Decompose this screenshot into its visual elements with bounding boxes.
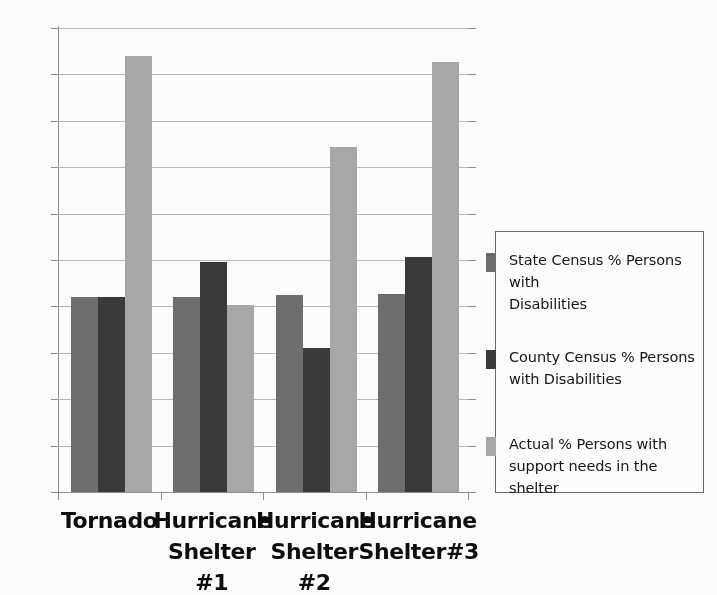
- y-tick-mark: [51, 399, 58, 400]
- bar: [303, 348, 330, 492]
- x-axis-label-line: Hurricane: [359, 505, 476, 536]
- bar: [98, 297, 125, 492]
- y-tick-mark-right: [468, 74, 476, 75]
- x-axis-label-line: Hurricane: [256, 505, 373, 536]
- bars-container: [58, 28, 468, 492]
- legend-label-line: Actual % Persons with: [509, 434, 699, 456]
- bar: [173, 297, 200, 492]
- y-tick-mark: [51, 492, 58, 493]
- y-tick-mark-right: [468, 214, 476, 215]
- legend-label: Actual % Persons withsupport needs in th…: [509, 434, 699, 499]
- y-tick-mark: [51, 260, 58, 261]
- bar: [71, 297, 98, 492]
- x-tick-mark: [468, 492, 469, 500]
- y-tick-mark-right: [468, 260, 476, 261]
- legend-label-line: County Census % Persons: [509, 347, 699, 369]
- x-tick-mark: [263, 492, 264, 500]
- x-axis-label-line: Tornado: [51, 505, 168, 536]
- bar: [125, 56, 152, 492]
- x-tick-mark: [161, 492, 162, 500]
- x-tick-mark: [58, 492, 59, 500]
- y-tick-mark: [51, 167, 58, 168]
- x-axis-label-line: Shelter#3: [359, 536, 476, 567]
- x-axis-label: HurricaneShelter#3: [359, 505, 476, 567]
- y-tick-mark: [51, 353, 58, 354]
- legend-swatch: [486, 437, 496, 456]
- y-tick-mark-right: [468, 306, 476, 307]
- legend: State Census % Persons withDisabilitiesC…: [495, 231, 704, 493]
- y-tick-mark-right: [468, 167, 476, 168]
- legend-label: State Census % Persons withDisabilities: [509, 250, 699, 315]
- legend-label-line: with Disabilities: [509, 369, 699, 391]
- legend-label: County Census % Personswith Disabilities: [509, 347, 699, 391]
- y-tick-mark: [51, 446, 58, 447]
- legend-swatch: [486, 253, 496, 272]
- y-tick-mark-right: [468, 399, 476, 400]
- x-tick-mark: [366, 492, 367, 500]
- plot-area: 05101520253035404550: [0, 0, 490, 510]
- x-axis-label: HurricaneShelter #1: [154, 505, 271, 595]
- y-tick-mark-right: [468, 28, 476, 29]
- x-axis-label: HurricaneShelter #2: [256, 505, 373, 595]
- bar: [330, 147, 357, 492]
- legend-label-line: support needs in the shelter: [509, 456, 699, 500]
- bar: [200, 262, 227, 492]
- y-tick-mark: [51, 306, 58, 307]
- x-axis-label-line: Shelter #1: [154, 536, 271, 595]
- y-tick-mark-right: [468, 492, 476, 493]
- bar: [405, 257, 432, 492]
- legend-swatch: [486, 350, 496, 369]
- bar: [378, 294, 405, 492]
- y-tick-mark-right: [468, 121, 476, 122]
- bar: [432, 62, 459, 492]
- x-axis-label-line: Hurricane: [154, 505, 271, 536]
- legend-label-line: Disabilities: [509, 294, 699, 316]
- chart-figure: 05101520253035404550 TornadoHurricaneShe…: [0, 0, 717, 595]
- bar: [276, 295, 303, 492]
- y-tick-mark: [51, 28, 58, 29]
- y-tick-mark: [51, 74, 58, 75]
- x-axis-label: Tornado: [51, 505, 168, 536]
- legend-label-line: State Census % Persons with: [509, 250, 699, 294]
- y-tick-mark-right: [468, 446, 476, 447]
- y-tick-mark-right: [468, 353, 476, 354]
- y-tick-mark: [51, 214, 58, 215]
- y-tick-mark: [51, 121, 58, 122]
- x-axis-category-labels: TornadoHurricaneShelter #1HurricaneShelt…: [0, 505, 490, 595]
- x-axis-label-line: Shelter #2: [256, 536, 373, 595]
- bar: [227, 305, 254, 492]
